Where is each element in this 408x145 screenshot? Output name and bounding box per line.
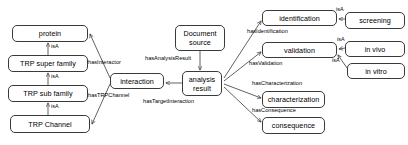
node-identification[interactable]: identification — [262, 10, 337, 26]
node-protein[interactable]: protein — [12, 25, 88, 42]
edge-label-isa-in-vitro: isA — [332, 57, 340, 63]
node-interaction[interactable]: interaction — [110, 73, 164, 89]
edge-interaction-has-interactor — [90, 34, 110, 78]
node-document-source[interactable]: Document source — [175, 25, 225, 51]
edge-label-isa-sub-family: isA — [51, 103, 59, 109]
edge-label-isa-in-vivo: isA — [337, 36, 345, 42]
edge-label-has-validation: hasValidation — [249, 60, 282, 66]
node-trp-sub-family[interactable]: TRP sub family — [8, 85, 88, 102]
node-in-vivo[interactable]: in vivo — [345, 41, 405, 57]
node-in-vitro[interactable]: in vitro — [347, 63, 405, 79]
edge-label-isa-screening: isA — [336, 6, 344, 12]
edge-analysis-result-has-consequence — [224, 87, 261, 122]
edge-label-has-consequence: hasConsequence — [252, 107, 296, 113]
node-trp-super-family[interactable]: TRP super family — [8, 55, 88, 72]
edge-label-has-target-interaction: hasTargetInteraction — [143, 98, 194, 104]
edge-label-has-characterization: hasCharacterization — [252, 80, 302, 86]
edge-label-has-identification: hasIdentification — [247, 28, 288, 34]
edge-interaction-has-trp-channel — [92, 84, 110, 124]
node-validation[interactable]: validation — [262, 42, 337, 58]
node-characterization[interactable]: characterization — [262, 91, 325, 108]
edge-analysis-result-has-validation — [224, 52, 261, 81]
edge-label-isa-protein: isA — [51, 43, 59, 49]
node-consequence[interactable]: consequence — [262, 117, 325, 134]
edge-analysis-result-has-characterization — [224, 84, 261, 98]
node-analysis-result[interactable]: analysis result — [182, 71, 222, 96]
edge-label-has-trp-channel: hasTRPChannel — [88, 92, 129, 98]
edge-label-has-analysis-result: hasAnalysisResult — [145, 55, 191, 61]
edge-label-isa-super-family: isA — [51, 73, 59, 79]
ontology-diagram-canvas: protein TRP super family TRP sub family … — [0, 0, 408, 145]
node-screening[interactable]: screening — [345, 12, 405, 29]
node-trp-channel[interactable]: TRP Channel — [10, 115, 90, 133]
edge-label-has-interactor: hasInteractor — [88, 59, 121, 65]
